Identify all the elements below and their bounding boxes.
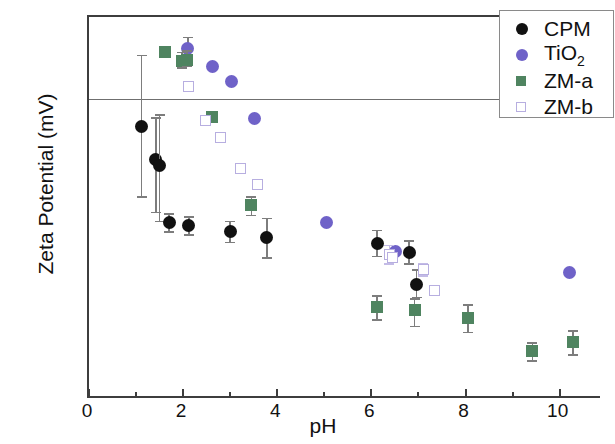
error-bar-cap bbox=[164, 231, 174, 233]
error-bar-cap bbox=[527, 342, 537, 344]
y-axis-title: Zeta Potential (mV) bbox=[34, 34, 58, 334]
error-bar-cap bbox=[372, 256, 382, 258]
data-point-zm-a bbox=[462, 312, 474, 324]
error-bar-cap bbox=[182, 66, 192, 68]
y-tick-major bbox=[87, 95, 89, 97]
y-tick-minor bbox=[87, 308, 89, 310]
data-point-cpm bbox=[371, 237, 384, 250]
x-tick-major bbox=[88, 389, 90, 398]
x-tick-minor bbox=[135, 392, 137, 398]
data-point-cpm bbox=[224, 225, 237, 238]
error-bar-cap bbox=[384, 245, 394, 247]
error-bar-cap bbox=[372, 319, 382, 321]
data-point-zm-b bbox=[418, 264, 429, 275]
error-bar-cap bbox=[372, 230, 382, 232]
x-tick-minor bbox=[323, 392, 325, 398]
error-bar-cap bbox=[155, 114, 165, 116]
x-tick-major bbox=[559, 389, 561, 398]
data-point-zm-a bbox=[409, 304, 421, 316]
legend-marker-filled-circle bbox=[516, 49, 528, 61]
data-point-cpm bbox=[403, 246, 416, 259]
data-point-cpm bbox=[260, 231, 273, 244]
data-point-zm-a bbox=[567, 336, 579, 348]
y-tick-major bbox=[87, 217, 89, 219]
x-tick-label: 0 bbox=[62, 400, 112, 422]
data-point-zm-b bbox=[215, 132, 226, 143]
error-bar-cap bbox=[404, 240, 414, 242]
y-tick-minor bbox=[87, 247, 89, 249]
x-tick-label: 8 bbox=[439, 400, 489, 422]
data-point-tio2 bbox=[225, 75, 238, 88]
x-tick-major bbox=[276, 389, 278, 398]
data-point-tio2 bbox=[320, 216, 333, 229]
error-bar-cap bbox=[463, 304, 473, 306]
data-point-zm-b bbox=[183, 81, 194, 92]
error-bar-cap bbox=[404, 263, 414, 265]
data-point-tio2 bbox=[563, 266, 576, 279]
error-bar-cap bbox=[418, 275, 428, 277]
legend-item-zm-b[interactable]: ZM-b bbox=[500, 93, 615, 120]
data-point-zm-a bbox=[159, 46, 171, 58]
data-point-cpm bbox=[153, 159, 166, 172]
error-bar-cap bbox=[182, 50, 192, 52]
error-bar-cap bbox=[137, 196, 147, 198]
legend-label: ZM-b bbox=[544, 95, 593, 119]
legend-item-zm-a[interactable]: ZM-a bbox=[500, 67, 615, 94]
legend-marker-filled-square bbox=[516, 76, 526, 86]
error-bar-cap bbox=[177, 67, 187, 69]
legend-label: TiO2 bbox=[544, 41, 585, 68]
y-tick-minor bbox=[87, 186, 89, 188]
y-tick-minor bbox=[87, 125, 89, 127]
error-bar-cap bbox=[246, 215, 256, 217]
y-tick-major bbox=[87, 156, 89, 158]
x-tick-major bbox=[465, 389, 467, 398]
y-tick-minor bbox=[87, 369, 89, 371]
data-point-zm-b bbox=[200, 115, 211, 126]
data-point-cpm bbox=[163, 216, 176, 229]
data-point-zm-b bbox=[235, 163, 246, 174]
y-tick-major bbox=[87, 34, 89, 36]
error-bar-cap bbox=[384, 263, 394, 265]
y-tick-major bbox=[87, 338, 89, 340]
error-bar-cap bbox=[410, 298, 420, 300]
x-tick-label: 2 bbox=[156, 400, 206, 422]
data-point-zm-b bbox=[252, 179, 263, 190]
error-bar-cap bbox=[568, 330, 578, 332]
data-point-cpm bbox=[135, 120, 148, 133]
y-tick-major bbox=[87, 277, 89, 279]
data-point-cpm bbox=[410, 278, 423, 291]
error-bar-cap bbox=[225, 242, 235, 244]
error-bar-cap bbox=[184, 216, 194, 218]
data-point-tio2 bbox=[206, 60, 219, 73]
error-bar-cap bbox=[246, 196, 256, 198]
error-bar-cap bbox=[568, 354, 578, 356]
legend: CPMTiO2ZM-aZM-b bbox=[499, 10, 614, 118]
data-point-zm-b bbox=[387, 252, 398, 263]
error-bar-cap bbox=[184, 234, 194, 236]
error-bar-cap bbox=[463, 332, 473, 334]
x-tick-minor bbox=[512, 392, 514, 398]
error-bar-cap bbox=[262, 218, 272, 220]
data-point-zm-a bbox=[181, 54, 193, 66]
legend-label: CPM bbox=[544, 17, 591, 41]
data-point-zm-a bbox=[526, 345, 538, 357]
error-bar-cap bbox=[183, 37, 193, 39]
legend-item-cpm[interactable]: CPM bbox=[500, 15, 615, 42]
x-tick-minor bbox=[417, 392, 419, 398]
legend-marker-open-square bbox=[516, 102, 526, 112]
error-bar-cap bbox=[262, 257, 272, 259]
x-tick-minor bbox=[229, 392, 231, 398]
x-tick-label: 6 bbox=[344, 400, 394, 422]
data-point-tio2 bbox=[248, 112, 261, 125]
data-point-cpm bbox=[182, 219, 195, 232]
error-bar-cap bbox=[410, 326, 420, 328]
y-tick-minor bbox=[87, 65, 89, 67]
error-bar-cap bbox=[527, 360, 537, 362]
error-bar-cap bbox=[372, 295, 382, 297]
data-point-zm-a bbox=[245, 199, 257, 211]
x-tick-label: 10 bbox=[533, 400, 583, 422]
legend-label: ZM-a bbox=[544, 69, 593, 93]
data-point-zm-a bbox=[371, 301, 383, 313]
legend-item-tio[interactable]: TiO2 bbox=[500, 41, 615, 68]
